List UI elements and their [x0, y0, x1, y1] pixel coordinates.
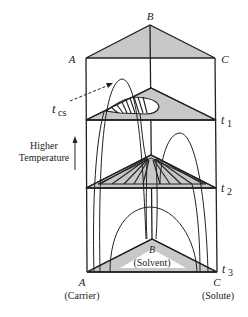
t2-triangle: [86, 155, 216, 188]
t2-label-symbol: t: [221, 181, 225, 195]
center-line-left: [146, 158, 147, 239]
arrow-head-icon: [73, 136, 78, 143]
tcs-arrow-head-icon: [106, 83, 113, 88]
label-B-bottom: B: [149, 244, 155, 255]
tcs-label-symbol: t: [52, 101, 56, 116]
label-solvent: (Solvent): [133, 257, 170, 269]
label-C-bottom: C: [213, 276, 221, 288]
axis-label-temperature: Temperature: [19, 152, 70, 163]
label-A-bottom: A: [78, 276, 86, 288]
edge-C: [215, 58, 217, 272]
label-carrier: (Carrier): [65, 290, 100, 302]
ternary-prism-diagram: B A C t cs t 1 t 2 t 3 Higher Temperatur…: [0, 0, 248, 317]
edge-A: [86, 58, 87, 272]
t2-label-subscript: 2: [227, 186, 232, 197]
left-inner-arch: [93, 112, 104, 272]
t3-label-symbol: t: [222, 262, 226, 276]
label-B-top: B: [147, 10, 154, 22]
tcs-label-subscript: cs: [58, 107, 66, 118]
t1-label-symbol: t: [221, 113, 225, 127]
axis-label-higher: Higher: [30, 140, 58, 151]
label-A-top: A: [68, 53, 76, 65]
label-solute: (Solute): [202, 290, 234, 302]
t3-label-subscript: 3: [228, 267, 233, 278]
t1-label-subscript: 1: [227, 118, 232, 129]
tcs-dashed-arrow: [70, 85, 109, 101]
center-line-right: [156, 160, 157, 239]
label-C-top: C: [221, 53, 229, 65]
